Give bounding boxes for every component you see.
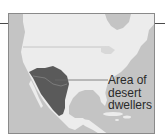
map-frame: Area of desert dwellers — [8, 13, 155, 134]
label-line-1: Area of — [108, 74, 155, 87]
hispaniola — [123, 116, 131, 119]
frame-tick-right — [155, 23, 165, 24]
cuba — [103, 112, 123, 116]
jamaica — [115, 119, 119, 121]
label-line-3: dwellers — [108, 99, 155, 112]
map-label-desert-dwellers: Area of desert dwellers — [108, 74, 155, 112]
